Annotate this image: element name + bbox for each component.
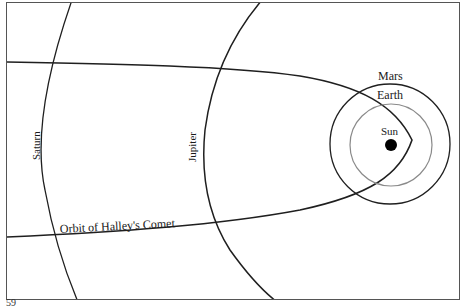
solar-system-diagram: Mars Earth Sun Orbit of Halley's Comet S… — [0, 0, 464, 308]
saturn-label: Saturn — [30, 131, 42, 160]
saturn-orbit — [41, 0, 78, 302]
jupiter-label: Jupiter — [186, 132, 198, 162]
sun-icon — [385, 139, 397, 151]
mars-label: Mars — [378, 69, 403, 83]
jupiter-orbit — [204, 0, 277, 302]
halley-comet-orbit — [6, 62, 412, 237]
comet-orbit-label: Orbit of Halley's Comet — [59, 216, 175, 236]
page-number: 59 — [6, 298, 16, 308]
sun-label: Sun — [381, 125, 399, 137]
earth-label: Earth — [377, 88, 403, 102]
